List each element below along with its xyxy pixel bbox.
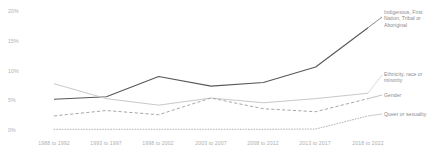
line-chart: 20% 15% 10% 5% 0% 1988 to 1992 1993 to 1…: [0, 0, 435, 153]
series-leader-1: [368, 75, 382, 93]
series-leader-3: [368, 114, 382, 116]
series-line-1: [54, 84, 368, 105]
series-leader-2: [368, 95, 382, 99]
series-label-gender: Gender: [384, 92, 401, 98]
x-axis-tick-5: 2013 to 2017: [299, 140, 331, 146]
series-line-3: [54, 116, 368, 129]
series-label-ethnicity: Ethnicity, race or minority: [384, 71, 422, 84]
plot-area: [0, 0, 435, 153]
series-leader-0: [368, 17, 382, 28]
x-axis-tick-4: 2008 to 2012: [247, 140, 279, 146]
series-label-indigenous: Indigenous, First Nation, Tribal or Abor…: [384, 9, 423, 28]
series-line-0: [54, 28, 368, 100]
x-axis-tick-6: 2018 to 2022: [352, 140, 384, 146]
x-axis-tick-1: 1993 to 1997: [90, 140, 122, 146]
x-axis-tick-2: 1998 to 2002: [142, 140, 174, 146]
x-axis-tick-0: 1988 to 1992: [38, 140, 70, 146]
series-label-queer: Queer or sexuality: [384, 111, 426, 117]
x-axis-tick-3: 2003 to 2007: [195, 140, 227, 146]
series-line-2: [54, 98, 368, 116]
